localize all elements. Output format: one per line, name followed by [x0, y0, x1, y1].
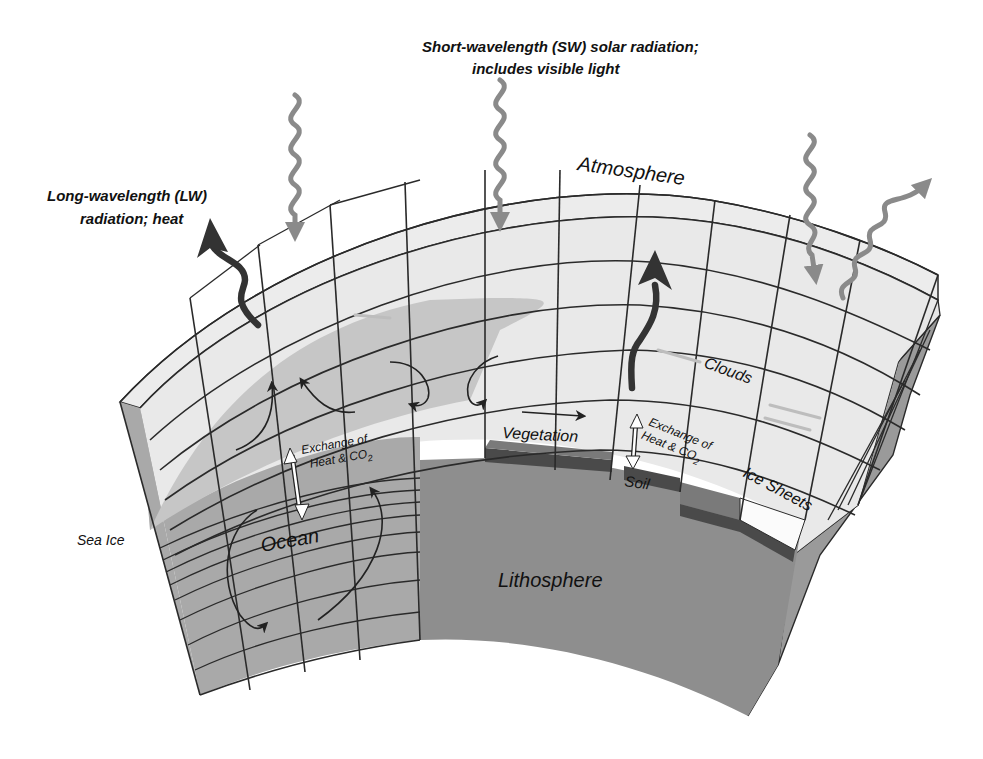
sw-radiation-label-line1: Short-wavelength (SW) solar radiation; — [422, 38, 699, 55]
sw-radiation-label-line2: includes visible light — [472, 60, 621, 77]
climate-model-diagram: Short-wavelength (SW) solar radiation; i… — [0, 0, 983, 759]
sea-ice-label: Sea Ice — [77, 532, 125, 548]
vegetation-label: Vegetation — [502, 424, 579, 445]
sw-incoming-arrow-center — [496, 80, 505, 222]
lithosphere-label: Lithosphere — [498, 569, 603, 591]
lw-radiation-label-line2: radiation; heat — [80, 210, 184, 227]
sw-incoming-arrow-left — [291, 95, 300, 232]
soil-label: Soil — [624, 472, 652, 492]
lw-radiation-label-line1: Long-wavelength (LW) — [47, 187, 207, 204]
diagram-canvas: Short-wavelength (SW) solar radiation; i… — [0, 0, 983, 759]
atmosphere-label: Atmosphere — [575, 152, 686, 189]
lw-arrowhead-left — [197, 218, 228, 258]
